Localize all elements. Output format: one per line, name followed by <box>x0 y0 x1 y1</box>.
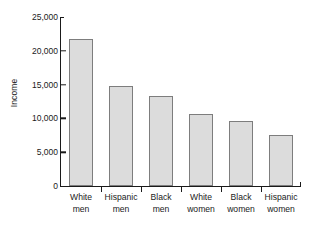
bar <box>269 135 293 186</box>
y-tick-label: 25,000 <box>20 13 58 22</box>
bar-chart: Income 05,00010,00015,00020,00025,000 Wh… <box>0 0 318 232</box>
y-tick-label: 0 <box>20 182 58 191</box>
x-category-label: Whitemen <box>61 192 101 215</box>
y-tick-label: 10,000 <box>20 114 58 123</box>
y-tick-label: 20,000 <box>20 47 58 56</box>
y-axis-tick-labels: 05,00010,00015,00020,00025,000 <box>20 0 58 200</box>
plot-area <box>61 17 301 186</box>
bar <box>69 39 93 186</box>
bar <box>109 86 133 186</box>
x-axis-category-labels: WhitemenHispanicmenBlackmenWhitewomenBla… <box>61 192 301 226</box>
bar <box>229 121 253 186</box>
y-axis-title-text: Income <box>9 79 19 107</box>
x-category-label: Hispanicwomen <box>261 192 301 215</box>
x-category-label: Whitewomen <box>181 192 221 215</box>
x-category-label: Hispanicmen <box>101 192 141 215</box>
y-tick-label: 15,000 <box>20 80 58 89</box>
y-tick-label: 5,000 <box>20 148 58 157</box>
x-category-label: Blackmen <box>141 192 181 215</box>
bar <box>189 114 213 186</box>
bar <box>149 96 173 186</box>
x-category-label: Blackwomen <box>221 192 261 215</box>
